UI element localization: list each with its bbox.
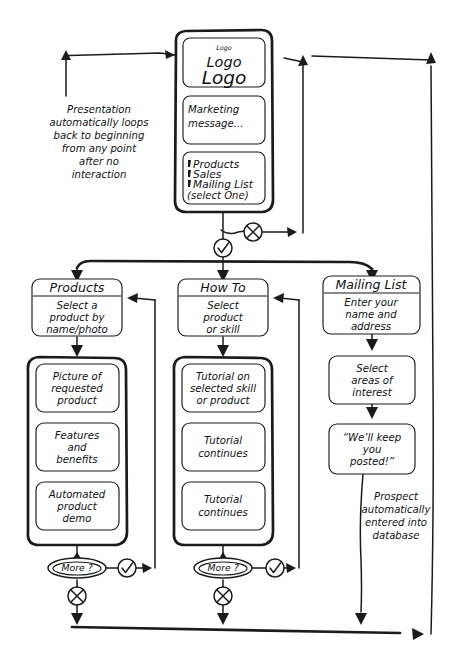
arrowhead-mailing-1 bbox=[366, 339, 378, 351]
products-screen-3[interactable]: Automated product demo bbox=[36, 482, 119, 530]
howto-screen-1-line: Tutorial on bbox=[196, 371, 250, 382]
howto-more-no[interactable] bbox=[214, 587, 232, 605]
annotation-line: automatically loops bbox=[50, 117, 150, 128]
column-how-to: How To Select product or skill Tutorial … bbox=[174, 279, 284, 605]
check-circle-icon bbox=[118, 559, 136, 577]
annotation-line: entered into bbox=[365, 517, 427, 528]
products-header-card[interactable]: Products Select a product by name/photo bbox=[32, 279, 122, 336]
products-header-line: product by bbox=[48, 312, 105, 323]
howto-screen-1-line: selected skill bbox=[190, 383, 256, 394]
mailing-header-line: name and bbox=[345, 309, 397, 320]
annotation-line: back to beginning bbox=[54, 130, 145, 141]
howto-more-decision[interactable]: More ? bbox=[194, 558, 252, 578]
check-circle-icon bbox=[266, 559, 284, 577]
howto-screen-2[interactable]: Tutorial continues bbox=[182, 423, 265, 471]
products-screen-2-line: benefits bbox=[56, 454, 98, 465]
flowchart-canvas: Logo Logo Logo Marketing message... Prod… bbox=[0, 0, 455, 671]
howto-screen-3-line: Tutorial bbox=[204, 494, 242, 505]
connector-loopback-left bbox=[66, 53, 175, 96]
mailing-screen-2-line: posted!” bbox=[349, 456, 395, 467]
home-select-decision[interactable] bbox=[214, 239, 232, 257]
products-screen-3-line: Automated bbox=[48, 489, 106, 500]
connector-home-to-timeout bbox=[221, 230, 245, 234]
connector-right-top bbox=[312, 56, 431, 60]
howto-header-title: How To bbox=[200, 280, 246, 295]
products-more-yes[interactable] bbox=[118, 559, 136, 577]
connector-bottom-bar bbox=[72, 627, 400, 633]
mailing-screen-2[interactable]: “We’ll keep you posted!” bbox=[329, 424, 415, 474]
products-more-no[interactable] bbox=[68, 587, 86, 605]
menu-select-note: (select One) bbox=[187, 190, 249, 201]
products-header-line: Select a bbox=[57, 300, 98, 311]
logo-text-small: Logo bbox=[216, 44, 232, 52]
mailing-screen-1-line: interest bbox=[352, 387, 392, 398]
arrowhead-mailing-exit bbox=[355, 613, 367, 625]
mailing-header-line: address bbox=[351, 321, 392, 332]
products-screen-1[interactable]: Picture of requested product bbox=[36, 364, 119, 412]
logo-card: Logo Logo Logo bbox=[183, 38, 265, 88]
howto-screen-2-box bbox=[182, 423, 265, 471]
column-products: Products Select a product by name/photo … bbox=[28, 279, 136, 605]
products-screen-1-line: Picture of bbox=[53, 371, 103, 382]
howto-header-line: Select bbox=[207, 300, 239, 311]
howto-screen-3[interactable]: Tutorial continues bbox=[182, 482, 265, 530]
arrowhead-products-return bbox=[127, 293, 138, 303]
products-more-label: More ? bbox=[61, 562, 92, 573]
mailing-header-line: Enter your bbox=[344, 297, 398, 308]
arrowhead-loopback-left bbox=[165, 50, 175, 59]
menu-card[interactable]: Products Sales Mailing List (select One) bbox=[183, 152, 265, 204]
howto-more-label: More ? bbox=[207, 562, 238, 573]
check-circle-icon bbox=[214, 239, 232, 257]
marketing-line-2: message... bbox=[188, 118, 244, 129]
arrowhead-howto-yes bbox=[286, 563, 296, 573]
arrowhead-products-no bbox=[71, 613, 83, 625]
arrowhead-bottom-right bbox=[412, 628, 424, 640]
products-screen-1-line: requested bbox=[51, 383, 103, 394]
arrowhead-howto-no bbox=[217, 613, 229, 625]
howto-screen-1[interactable]: Tutorial on selected skill or product bbox=[182, 364, 265, 412]
menu-item-mailing-list[interactable]: Mailing List bbox=[188, 178, 254, 190]
products-screen-2-line: Features bbox=[55, 430, 100, 441]
marketing-line-1: Marketing bbox=[188, 104, 240, 115]
products-header-title: Products bbox=[50, 280, 105, 295]
arrowhead-howto-return bbox=[273, 293, 284, 303]
products-header-line: name/photo bbox=[46, 324, 108, 335]
howto-screen-2-line: continues bbox=[198, 448, 248, 459]
home-timeout-decision[interactable] bbox=[244, 223, 262, 241]
annotation-line: automatically bbox=[362, 504, 432, 515]
flowchart-diagram: Logo Logo Logo Marketing message... Prod… bbox=[0, 0, 455, 671]
mailing-header-card[interactable]: Mailing List Enter your name and address bbox=[323, 276, 420, 334]
annotation-line: Prospect bbox=[374, 491, 419, 502]
arrowhead-timeout-right bbox=[287, 227, 297, 237]
products-screen-3-line: product bbox=[56, 501, 97, 512]
mailing-screen-2-line: “We’ll keep bbox=[343, 432, 402, 443]
annotation-prospect: Prospect automatically entered into data… bbox=[362, 491, 432, 541]
marketing-message-card: Marketing message... bbox=[183, 96, 265, 144]
howto-header-card[interactable]: How To Select product or skill bbox=[178, 279, 268, 336]
annotation-line: Presentation bbox=[67, 104, 131, 115]
arrowhead-howto-group bbox=[217, 345, 229, 357]
products-screen-2[interactable]: Features and benefits bbox=[36, 423, 119, 471]
howto-screen-1-line: or product bbox=[196, 395, 250, 406]
products-screen-3-line: demo bbox=[63, 513, 92, 524]
mailing-screen-1-line: areas of bbox=[351, 375, 394, 386]
howto-header-line: product bbox=[202, 312, 243, 323]
connector-mailing-exit bbox=[360, 474, 363, 612]
connector-fan-bar bbox=[77, 261, 372, 269]
annotation-line: after no bbox=[79, 156, 119, 167]
attract-screen-group[interactable]: Logo Logo Logo Marketing message... Prod… bbox=[175, 30, 273, 212]
arrowhead-products-yes bbox=[142, 563, 152, 573]
products-more-decision[interactable]: More ? bbox=[48, 558, 106, 578]
annotation-loopback: Presentation automatically loops back to… bbox=[50, 104, 150, 180]
annotation-line: from any point bbox=[62, 143, 137, 154]
howto-more-yes[interactable] bbox=[266, 559, 284, 577]
logo-text-large: Logo bbox=[202, 67, 247, 88]
products-screen-1-line: product bbox=[56, 395, 97, 406]
howto-header-line: or skill bbox=[206, 324, 240, 335]
howto-screen-3-line: continues bbox=[198, 507, 248, 518]
products-screen-2-line: and bbox=[67, 442, 87, 453]
howto-screen-3-box bbox=[182, 482, 265, 530]
mailing-screen-1[interactable]: Select areas of interest bbox=[329, 356, 415, 404]
connector-right-riser bbox=[431, 66, 433, 634]
menu-item-label: Mailing List bbox=[193, 178, 254, 190]
